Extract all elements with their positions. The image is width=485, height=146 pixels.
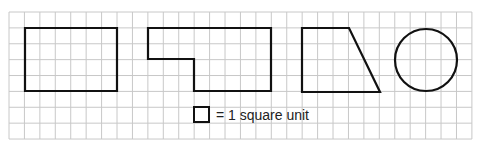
- legend: = 1 square unit: [194, 107, 309, 123]
- unit-square-icon: [194, 107, 209, 122]
- legend-label: = 1 square unit: [216, 107, 309, 123]
- shapes-figure: = 1 square unit: [0, 0, 485, 146]
